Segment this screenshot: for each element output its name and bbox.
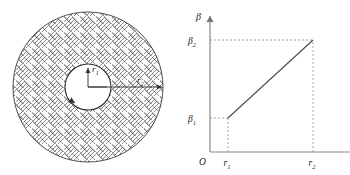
- x-tick-label-r2: r2: [309, 158, 317, 170]
- beta-vs-r-chart-panel: β β2 β1 O r1 r2: [175, 0, 350, 175]
- x-tick-label-r1: r1: [224, 158, 231, 170]
- beta-chart-svg: β β2 β1 O r1 r2: [175, 0, 350, 175]
- figure-root: r1 r2: [0, 0, 350, 175]
- beta-data-line: [228, 40, 313, 118]
- annulus-diagram-panel: r1 r2: [0, 0, 175, 175]
- annulus-svg: r1 r2: [0, 0, 175, 175]
- y-tick-label-beta1: β1: [187, 114, 196, 126]
- y-tick-label-beta2: β2: [187, 36, 197, 48]
- origin-label: O: [199, 157, 206, 167]
- y-axis-label: β: [195, 11, 201, 22]
